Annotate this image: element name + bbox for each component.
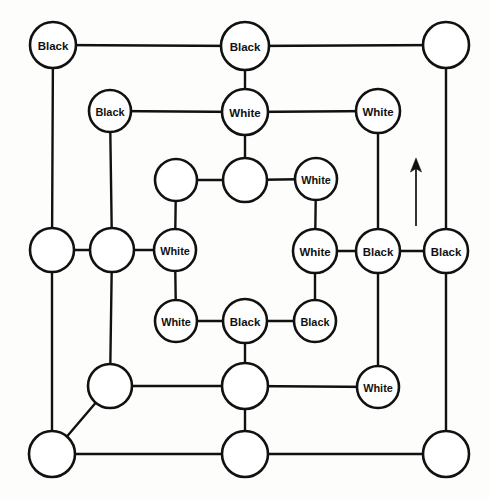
node-circle[interactable]	[294, 300, 336, 342]
lattice-node-white[interactable]: White	[155, 300, 197, 342]
node-circle[interactable]	[30, 228, 74, 272]
node-circle[interactable]	[423, 431, 469, 477]
lattice-node-black[interactable]: Black	[294, 300, 336, 342]
lattice-node-unlabeled[interactable]	[423, 431, 469, 477]
lattice-node-unlabeled[interactable]	[88, 364, 132, 408]
node-layer: BlackBlackBlackWhiteWhiteWhiteWhiteWhite…	[29, 22, 469, 477]
node-circle[interactable]	[424, 229, 468, 273]
lattice-node-black[interactable]: Black	[221, 22, 269, 70]
lattice-node-unlabeled[interactable]	[423, 22, 469, 68]
lattice-node-white[interactable]: White	[356, 89, 400, 133]
node-circle[interactable]	[30, 22, 76, 68]
node-circle[interactable]	[222, 363, 268, 409]
lattice-node-unlabeled[interactable]	[222, 431, 268, 477]
lattice-edge	[245, 45, 446, 46]
node-circle[interactable]	[222, 431, 268, 477]
node-circle[interactable]	[222, 89, 268, 135]
lattice-node-white[interactable]: White	[222, 89, 268, 135]
lattice-node-unlabeled[interactable]	[155, 159, 197, 201]
lattice-node-unlabeled[interactable]	[223, 158, 267, 202]
lattice-svg: BlackBlackBlackWhiteWhiteWhiteWhiteWhite…	[0, 0, 490, 499]
up-arrow-icon	[411, 158, 422, 226]
lattice-node-black[interactable]: Black	[89, 90, 131, 132]
lattice-node-black[interactable]: Black	[30, 22, 76, 68]
node-circle[interactable]	[223, 158, 267, 202]
node-circle[interactable]	[154, 229, 196, 271]
annotation-layer	[411, 158, 422, 226]
node-circle[interactable]	[423, 22, 469, 68]
node-circle[interactable]	[155, 159, 197, 201]
lattice-node-unlabeled[interactable]	[30, 228, 74, 272]
lattice-edge	[52, 45, 53, 250]
lattice-node-black[interactable]: Black	[223, 299, 267, 343]
lattice-node-white[interactable]: White	[295, 158, 337, 200]
node-circle[interactable]	[221, 22, 269, 70]
node-circle[interactable]	[356, 89, 400, 133]
lattice-diagram-canvas: BlackBlackBlackWhiteWhiteWhiteWhiteWhite…	[0, 0, 490, 499]
node-circle[interactable]	[295, 158, 337, 200]
lattice-edge	[53, 45, 245, 46]
lattice-node-white[interactable]: White	[154, 229, 196, 271]
node-circle[interactable]	[88, 364, 132, 408]
lattice-node-white[interactable]: White	[357, 366, 399, 408]
lattice-node-unlabeled[interactable]	[29, 431, 75, 477]
node-circle[interactable]	[223, 299, 267, 343]
node-circle[interactable]	[357, 366, 399, 408]
node-circle[interactable]	[89, 90, 131, 132]
node-circle[interactable]	[155, 300, 197, 342]
lattice-node-black[interactable]: Black	[424, 229, 468, 273]
node-circle[interactable]	[356, 229, 400, 273]
lattice-node-black[interactable]: Black	[356, 229, 400, 273]
node-circle[interactable]	[29, 431, 75, 477]
lattice-node-unlabeled[interactable]	[222, 363, 268, 409]
lattice-node-unlabeled[interactable]	[90, 228, 134, 272]
node-circle[interactable]	[293, 229, 337, 273]
node-circle[interactable]	[90, 228, 134, 272]
lattice-node-white[interactable]: White	[293, 229, 337, 273]
